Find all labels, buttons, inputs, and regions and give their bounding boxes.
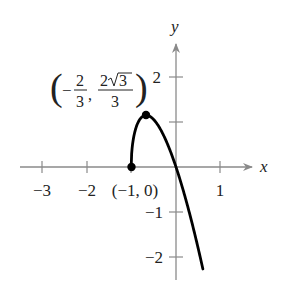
max-label-x-den: 3 — [76, 93, 84, 110]
max-label-comma: , — [88, 86, 92, 103]
y-tick-label-neg2: −2 — [145, 248, 163, 267]
max-label-close-paren: ) — [135, 66, 148, 109]
max-label-y-den: 3 — [111, 93, 119, 110]
endpoint-label: (−1, 0) — [112, 181, 158, 200]
maximum-marker — [142, 111, 150, 119]
max-label-minus: − — [62, 81, 72, 100]
x-tick-label-1: 1 — [216, 181, 225, 200]
y-tick-label-neg1: −1 — [145, 203, 163, 222]
x-tick-label-neg3: −3 — [33, 181, 51, 200]
y-tick-label-2: 2 — [153, 68, 162, 87]
max-label-y-coef: 2 — [100, 72, 108, 89]
max-label-x-num: 2 — [76, 72, 84, 89]
y-axis-label: y — [169, 17, 179, 36]
endpoint-marker — [127, 163, 135, 171]
max-label-y-rad: 3 — [119, 72, 127, 89]
maximum-label: ( − 2 3 , 2 3 3 ) — [50, 66, 148, 110]
x-tick-label-neg2: −2 — [78, 181, 96, 200]
x-axis-label: x — [259, 157, 268, 176]
max-label-open-paren: ( — [50, 66, 63, 109]
function-graph: x y −3 −2 1 2 −1 −2 (−1, 0) ( − 2 3 , 2 … — [0, 0, 281, 304]
